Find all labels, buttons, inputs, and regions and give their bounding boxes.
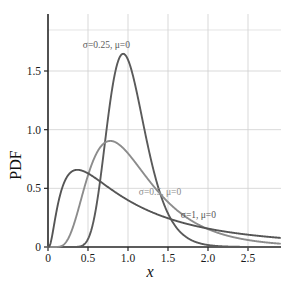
y-axis-title: PDF <box>7 150 24 179</box>
x-tick-label: 0 <box>45 252 51 264</box>
curve-sigma-1 <box>48 170 280 247</box>
curves-group <box>48 54 280 247</box>
y-tick-label: 0.5 <box>27 182 42 194</box>
curve-annotations-group: σ=0.25, μ=0σ=0.5, μ=0σ=1, μ=0 <box>83 40 216 220</box>
x-tick-label: 1.5 <box>161 252 176 264</box>
curve-label-sigma-0.5: σ=0.5, μ=0 <box>139 187 182 197</box>
chart-canvas: 00.51.01.52.02.500.51.01.5 σ=0.25, μ=0σ=… <box>0 0 285 284</box>
curve-sigma-0.25 <box>48 54 280 247</box>
y-tick-label: 1.0 <box>27 124 42 136</box>
x-tick-label: 2.0 <box>201 252 216 264</box>
y-tick-label: 0 <box>35 241 41 253</box>
curve-label-sigma-0.25: σ=0.25, μ=0 <box>83 40 130 50</box>
curve-label-sigma-1: σ=1, μ=0 <box>181 210 216 220</box>
x-tick-label: 0.5 <box>81 252 96 264</box>
y-tick-label: 1.5 <box>27 65 42 77</box>
x-axis-title: x <box>145 263 153 280</box>
lognormal-pdf-chart: 00.51.01.52.02.500.51.01.5 σ=0.25, μ=0σ=… <box>0 0 285 284</box>
x-tick-label: 2.5 <box>241 252 256 264</box>
x-tick-label: 1.0 <box>121 252 136 264</box>
